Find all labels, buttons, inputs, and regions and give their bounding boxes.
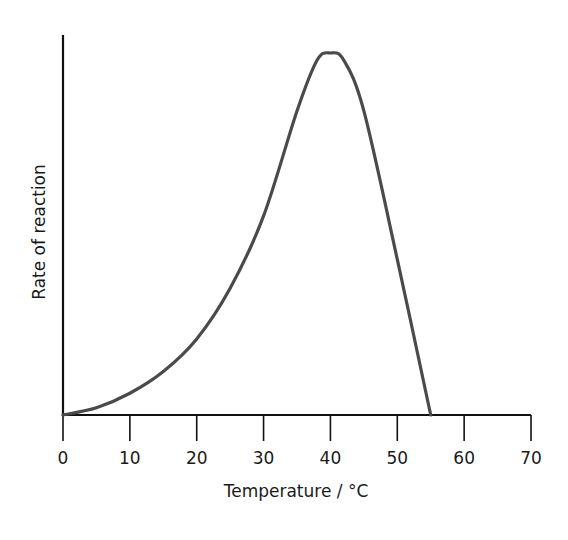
x-axis: 010203040506070	[58, 415, 542, 468]
x-tick-label: 0	[58, 448, 69, 468]
chart: 010203040506070 Temperature / °C Rate of…	[0, 0, 568, 540]
x-tick-label: 50	[386, 448, 408, 468]
x-tick-label: 20	[186, 448, 208, 468]
y-axis-title: Rate of reaction	[29, 164, 49, 300]
x-tick-label: 40	[320, 448, 342, 468]
x-axis-title: Temperature / °C	[223, 481, 369, 501]
x-tick-label: 70	[520, 448, 542, 468]
x-tick-label: 60	[453, 448, 475, 468]
x-tick-label: 30	[253, 448, 275, 468]
rate-curve	[63, 53, 431, 415]
x-tick-label: 10	[119, 448, 141, 468]
x-ticks: 010203040506070	[58, 415, 542, 468]
